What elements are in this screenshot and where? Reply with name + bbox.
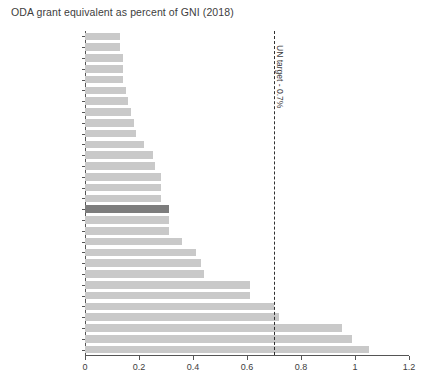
x-axis-tick-label: 1.2 bbox=[403, 362, 416, 372]
bar bbox=[85, 249, 196, 257]
x-axis-tick-label: 0.6 bbox=[241, 362, 254, 372]
bar-row: Czech Republic bbox=[85, 74, 409, 85]
x-axis-tick bbox=[355, 356, 356, 360]
bar-row: Norway bbox=[85, 323, 409, 334]
bar bbox=[85, 141, 144, 149]
x-axis-tick-label: 0.2 bbox=[133, 362, 146, 372]
bar bbox=[85, 97, 128, 105]
plot-area: Slovak RepublicGreecePolandHungaryCzech … bbox=[85, 31, 409, 355]
chart-title: ODA grant equivalent as percent of GNI (… bbox=[11, 6, 234, 18]
un-target-label: UN target - 0.7% bbox=[275, 45, 285, 108]
bar-row: Slovenia bbox=[85, 96, 409, 107]
bar-row: Portugal bbox=[85, 117, 409, 128]
bar bbox=[85, 173, 161, 181]
chart-container: ODA grant equivalent as percent of GNI (… bbox=[0, 0, 432, 387]
bar-row: Luxembourg bbox=[85, 333, 409, 344]
bar-row: Ireland bbox=[85, 225, 409, 236]
bar-row: Poland bbox=[85, 53, 409, 64]
x-axis-tick-label: 0.8 bbox=[295, 362, 308, 372]
bar-row: Slovak Republic bbox=[85, 31, 409, 42]
bar-row: Canada bbox=[85, 182, 409, 193]
bar bbox=[85, 270, 204, 278]
bar-row: Iceland bbox=[85, 215, 409, 226]
x-axis-tick bbox=[193, 356, 194, 360]
bar bbox=[85, 54, 123, 62]
bar-row: Greece bbox=[85, 42, 409, 53]
bar bbox=[85, 108, 131, 116]
bar bbox=[85, 324, 342, 332]
bar bbox=[85, 130, 136, 138]
bar bbox=[85, 162, 155, 170]
bar bbox=[85, 313, 279, 321]
bar bbox=[85, 216, 169, 224]
x-axis-tick bbox=[139, 356, 140, 360]
bar-row: Denmark bbox=[85, 312, 409, 323]
bar-row: New Zealand bbox=[85, 193, 409, 204]
bar bbox=[85, 76, 123, 84]
bar bbox=[85, 195, 161, 203]
bar-row: United Kingdom bbox=[85, 301, 409, 312]
x-axis-tick bbox=[409, 356, 410, 360]
bar-row: Korea bbox=[85, 85, 409, 96]
bar bbox=[85, 119, 134, 127]
bar-row: DAC total bbox=[85, 204, 409, 215]
bar-row: France bbox=[85, 247, 409, 258]
bar bbox=[85, 65, 123, 73]
bar bbox=[85, 303, 274, 311]
x-axis-tick-label: 1 bbox=[352, 362, 357, 372]
bar-row: Australia bbox=[85, 139, 409, 150]
bar-row: Spain bbox=[85, 128, 409, 139]
bar-row: Finland bbox=[85, 236, 409, 247]
bar bbox=[85, 43, 120, 51]
bar-row: Sweden bbox=[85, 344, 409, 355]
bar bbox=[85, 346, 369, 354]
bar-row: Japan bbox=[85, 171, 409, 182]
x-axis-tick-label: 0.4 bbox=[187, 362, 200, 372]
bar bbox=[85, 227, 169, 235]
bar-row: Hungary bbox=[85, 63, 409, 74]
bar bbox=[85, 238, 182, 246]
bar-row: Germany bbox=[85, 290, 409, 301]
bar bbox=[85, 87, 126, 95]
bar-row: Switzerland bbox=[85, 269, 409, 280]
x-axis-tick bbox=[301, 356, 302, 360]
x-axis-tick-label: 0 bbox=[82, 362, 87, 372]
bar-row: Belgium bbox=[85, 258, 409, 269]
bar-row: Netherlands bbox=[85, 279, 409, 290]
bar bbox=[85, 335, 352, 343]
bar bbox=[85, 151, 153, 159]
bar bbox=[85, 184, 161, 192]
bar bbox=[85, 205, 169, 213]
bar-row: Italy bbox=[85, 150, 409, 161]
bar-row: United States bbox=[85, 107, 409, 118]
bar-row: Austria bbox=[85, 161, 409, 172]
x-axis-tick bbox=[247, 356, 248, 360]
bar bbox=[85, 33, 120, 41]
bar bbox=[85, 281, 250, 289]
bar bbox=[85, 292, 250, 300]
x-axis-tick bbox=[85, 356, 86, 360]
bar bbox=[85, 259, 201, 267]
